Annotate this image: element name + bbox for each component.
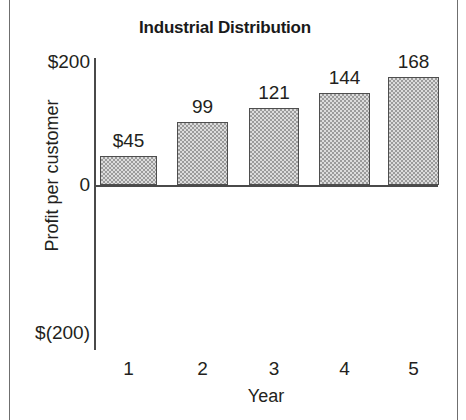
bar-year-4 <box>319 93 370 185</box>
bar-value-year-5: 168 <box>370 51 457 73</box>
x-axis-title: Year <box>94 386 438 407</box>
y-tick-label-negative-200: $(200) <box>4 322 90 344</box>
y-tick-label-200: $200 <box>4 51 90 73</box>
chart-page: Industrial Distribution $200 0 $(200) Pr… <box>0 0 466 420</box>
y-axis-title: Profit per customer <box>42 76 63 276</box>
bar-chart: Industrial Distribution $200 0 $(200) Pr… <box>0 0 466 420</box>
bar-year-1 <box>100 156 157 185</box>
bar-value-year-1: $45 <box>82 130 175 152</box>
y-axis-line <box>94 58 96 350</box>
zero-baseline <box>94 185 438 187</box>
bar-year-5 <box>388 77 439 185</box>
x-tick-label-5: 5 <box>370 358 457 380</box>
bar-year-3 <box>249 108 299 185</box>
chart-title: Industrial Distribution <box>60 18 390 38</box>
bar-year-2 <box>177 122 228 185</box>
